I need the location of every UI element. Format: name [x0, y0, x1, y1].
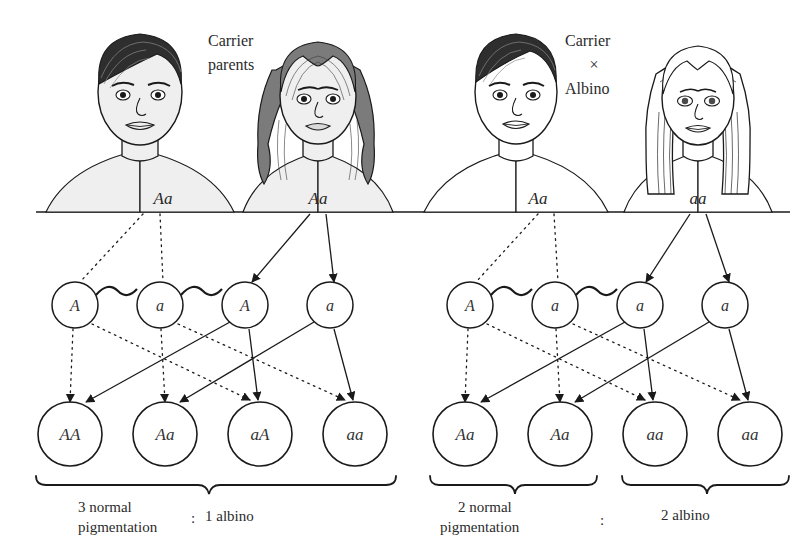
- offspring-row: AA Aa aA aa Aa Aa: [38, 402, 782, 466]
- connector-g1-o1: [70, 329, 73, 402]
- connector-p2-g4: [326, 214, 334, 282]
- ratio-left-colon: :: [191, 510, 195, 526]
- connector-g2-o2: [161, 329, 165, 402]
- ratio-labels: 3 normal pigmentation : 1 albino 2 norma…: [78, 499, 710, 535]
- gamete-8-egg-a: a: [702, 282, 748, 328]
- connector-g5-o5: [465, 329, 468, 402]
- gamete-label-5: A: [464, 297, 475, 314]
- offspring-6: Aa: [528, 402, 592, 466]
- ratio-left-albino: 1 albino: [205, 508, 254, 524]
- offspring-genotype-2: Aa: [155, 425, 175, 444]
- sperm-tail-2: [181, 287, 222, 295]
- connector-g7-o7: [644, 329, 653, 400]
- offspring-2: Aa: [133, 402, 197, 466]
- ratio-left-normal-line2: pigmentation: [78, 519, 158, 535]
- connector-p4-g7: [646, 214, 690, 282]
- genetics-diagram-page: Aa Carrier parents: [0, 0, 806, 559]
- connector-p4-g8: [706, 214, 729, 282]
- caption-line-albino: Albino: [565, 80, 609, 97]
- gamete-7-egg-a: a: [617, 282, 663, 328]
- gamete-3-egg-A: A: [222, 282, 268, 328]
- gamete-2-sperm-a: a: [137, 282, 222, 328]
- offspring-4: aa: [323, 402, 387, 466]
- offspring-genotype-4: aa: [347, 425, 364, 444]
- ratio-right-normal-line2: pigmentation: [440, 519, 520, 535]
- gamete-label-8: a: [721, 297, 729, 314]
- gamete-label-6: a: [551, 297, 559, 314]
- offspring-genotype-5: Aa: [455, 425, 475, 444]
- connector-g8-o8: [729, 329, 748, 400]
- ratio-left-normal-line1: 3 normal: [78, 499, 132, 515]
- sperm-tail-6: [576, 287, 617, 295]
- offspring-7: aa: [623, 402, 687, 466]
- gamete-label-4: a: [326, 297, 334, 314]
- connector-p2-g3: [252, 214, 310, 282]
- parent-genotype-4: aa: [690, 189, 707, 208]
- caption-carrier-albino: Carrier × Albino: [565, 32, 611, 97]
- connector-g3-o3: [249, 329, 258, 400]
- ratio-right-albino: 2 albino: [661, 507, 710, 523]
- caption-line-times: ×: [589, 56, 598, 73]
- caption-line-parents: parents: [208, 56, 254, 74]
- gamete-label-2: a: [156, 297, 164, 314]
- offspring-genotype-1: AA: [59, 425, 81, 444]
- offspring-1: AA: [38, 402, 102, 466]
- brace-left-cross: [36, 476, 396, 494]
- gamete-5-sperm-A: A: [447, 282, 532, 328]
- sperm-tail-1: [96, 287, 137, 295]
- offspring-3: aA: [228, 402, 292, 466]
- caption-carrier-parents: Carrier parents: [208, 32, 254, 74]
- connector-g6-o6: [556, 329, 560, 402]
- gametes-row: A a A a A: [52, 282, 748, 328]
- parent-figure-male-carrier-1: Aa: [46, 34, 234, 212]
- parent-figure-female-carrier-1: Aa: [243, 42, 393, 212]
- parent-genotype-1: Aa: [153, 189, 173, 208]
- ratio-brackets: [36, 476, 789, 494]
- ratio-right-colon: :: [600, 512, 604, 528]
- gamete-1-sperm-A: A: [52, 282, 137, 328]
- gamete-6-sperm-a: a: [532, 282, 617, 328]
- connector-g5-o7: [487, 324, 645, 400]
- parents-row: Aa Carrier parents: [36, 32, 790, 212]
- gamete-label-3: A: [239, 297, 250, 314]
- connector-p1-g1: [80, 214, 143, 282]
- parent-figure-female-albino: aa: [624, 46, 772, 212]
- parent-genotype-3: Aa: [528, 189, 548, 208]
- gamete-offspring-connectors: [70, 322, 748, 402]
- connector-g4-o4: [334, 329, 353, 400]
- caption-line-carrier: Carrier: [208, 32, 254, 49]
- connector-g7-o5: [481, 322, 625, 402]
- offspring-genotype-6: Aa: [550, 425, 570, 444]
- gamete-label-1: A: [69, 297, 80, 314]
- sperm-tail-5: [491, 287, 532, 295]
- parent-gamete-connectors: [80, 214, 729, 282]
- inheritance-diagram: Aa Carrier parents: [0, 0, 806, 559]
- connector-p1-g2: [160, 214, 163, 282]
- parent-genotype-2: Aa: [308, 189, 328, 208]
- caption-line-carrier-2: Carrier: [565, 32, 611, 49]
- connector-p3-g6: [554, 214, 558, 282]
- offspring-5: Aa: [433, 402, 497, 466]
- brace-right-normal: [430, 476, 597, 494]
- offspring-genotype-7: aa: [647, 425, 664, 444]
- brace-right-albino: [622, 476, 789, 494]
- connector-g1-o3: [92, 324, 250, 400]
- gamete-label-7: a: [636, 297, 644, 314]
- gamete-4-egg-a: a: [307, 282, 353, 328]
- connector-p3-g5: [476, 214, 538, 282]
- ratio-right-normal-line1: 2 normal: [458, 499, 512, 515]
- parent-figure-male-carrier-2: Aa: [424, 34, 608, 212]
- offspring-genotype-8: aa: [742, 425, 759, 444]
- offspring-genotype-3: aA: [251, 425, 271, 444]
- offspring-8: aa: [718, 402, 782, 466]
- connector-g3-o1: [86, 322, 230, 402]
